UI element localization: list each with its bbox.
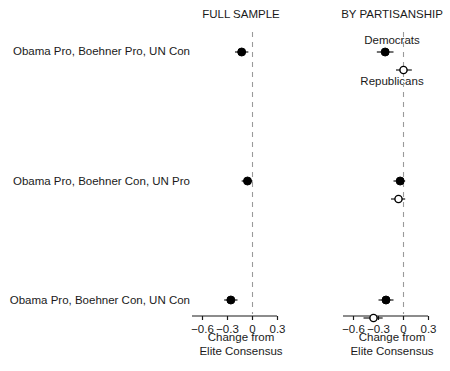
data-point-open [395,195,402,202]
data-point-filled [396,177,404,185]
x-axis-title-line1-left: Change from [208,331,274,343]
data-point-open [400,66,407,73]
data-point-filled [382,296,390,304]
x-axis-title-line2-right: Elite Consensus [350,345,433,357]
annotation-republicans: Republicans [360,75,424,87]
category-label-row-0: Obama Pro, Boehner Pro, UN Con [13,45,190,57]
x-axis-title-line2-left: Elite Consensus [199,345,282,357]
data-point-filled [244,177,252,185]
data-point-filled [227,296,235,304]
panel-header-by-partisanship: BY PARTISANSHIP [341,8,443,20]
panel-header-full-sample: FULL SAMPLE [202,8,280,20]
forest-plot-figure: FULL SAMPLE BY PARTISANSHIP Obama Pro, B… [0,0,450,371]
category-label-row-2: Obama Pro, Boehner Con, UN Con [10,294,190,306]
data-point-filled [238,48,246,56]
data-point-open [370,314,377,321]
x-axis-title-line1-right: Change from [359,331,425,343]
data-point-filled [381,48,389,56]
annotation-democrats: Democrats [364,34,420,46]
category-label-row-1: Obama Pro, Boehner Con, UN Pro [13,175,190,187]
